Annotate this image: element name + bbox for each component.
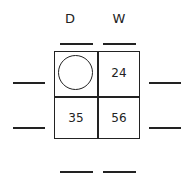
blank-right-2[interactable]	[149, 127, 181, 129]
blank-left-1[interactable]	[13, 82, 45, 84]
blank-top-2[interactable]	[103, 43, 136, 45]
blank-top-1[interactable]	[60, 43, 93, 45]
cell-circle-icon	[58, 55, 93, 90]
blank-left-2[interactable]	[13, 127, 45, 129]
blank-bottom-2[interactable]	[103, 171, 136, 173]
cell-r0-c1: 24	[98, 66, 140, 80]
number-grid: 24 35 56	[54, 51, 140, 139]
grid-vertical-divider	[97, 52, 99, 138]
cell-r1-c0: 35	[55, 111, 97, 125]
column-label-w: W	[104, 11, 134, 26]
grid-horizontal-divider	[55, 96, 139, 98]
blank-bottom-1[interactable]	[60, 171, 93, 173]
column-label-d: D	[55, 11, 85, 26]
blank-right-1[interactable]	[149, 82, 181, 84]
cell-r1-c1: 56	[98, 111, 140, 125]
